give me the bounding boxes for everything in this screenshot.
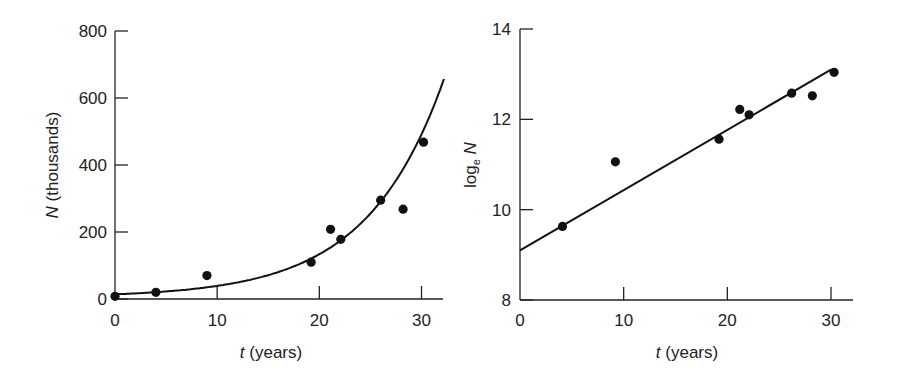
- right-y-axis: 8101214 loge N: [461, 20, 533, 310]
- right-y-axis-label: loge N: [461, 141, 482, 188]
- data-point: [110, 292, 119, 301]
- left-x-axis: 0102030 t (years): [110, 286, 443, 362]
- left-x-tick-label: 0: [110, 311, 119, 330]
- data-point: [202, 271, 211, 280]
- left-x-axis-label: t (years): [240, 343, 302, 362]
- right-data-points: [558, 68, 839, 231]
- left-y-axis-label: N (thousands): [43, 112, 62, 219]
- left-y-tick-label: 600: [79, 89, 107, 108]
- left-fit-curve: [115, 79, 444, 294]
- data-point: [376, 196, 385, 205]
- data-point: [745, 110, 754, 119]
- right-chart-log: 8101214 loge N 0102030 t (years): [461, 20, 853, 362]
- data-point: [326, 225, 335, 234]
- data-point: [714, 135, 723, 144]
- right-x-tick-label: 30: [822, 311, 841, 330]
- data-point: [419, 138, 428, 147]
- data-point: [735, 105, 744, 114]
- right-x-axis: 0102030 t (years): [515, 287, 853, 362]
- right-y-tick-label: 8: [502, 291, 511, 310]
- left-chart-exponential: 0200400600800 N (thousands) 0102030 t (y…: [43, 22, 444, 362]
- left-x-tick-label: 30: [412, 311, 431, 330]
- data-point: [830, 68, 839, 77]
- data-point: [611, 157, 620, 166]
- figure: 0200400600800 N (thousands) 0102030 t (y…: [0, 0, 897, 378]
- left-x-tick-label: 10: [208, 311, 227, 330]
- right-x-tick-label: 0: [515, 311, 524, 330]
- data-point: [151, 288, 160, 297]
- data-point: [336, 235, 345, 244]
- right-y-tick-label: 14: [492, 20, 511, 39]
- data-point: [558, 222, 567, 231]
- right-fit-line: [520, 70, 831, 251]
- right-x-axis-label: t (years): [656, 343, 718, 362]
- right-x-tick-label: 10: [614, 311, 633, 330]
- right-x-tick-label: 20: [718, 311, 737, 330]
- left-x-tick-label: 20: [310, 311, 329, 330]
- left-y-tick-label: 400: [79, 156, 107, 175]
- right-y-tick-label: 10: [492, 201, 511, 220]
- data-point: [787, 89, 796, 98]
- right-y-tick-label: 12: [492, 110, 511, 129]
- data-point: [808, 91, 817, 100]
- data-point: [307, 258, 316, 267]
- left-y-tick-label: 200: [79, 223, 107, 242]
- data-point: [399, 205, 408, 214]
- left-y-tick-label: 0: [98, 290, 107, 309]
- left-y-axis: 0200400600800 N (thousands): [43, 22, 128, 309]
- left-data-points: [110, 138, 428, 301]
- left-y-tick-label: 800: [79, 22, 107, 41]
